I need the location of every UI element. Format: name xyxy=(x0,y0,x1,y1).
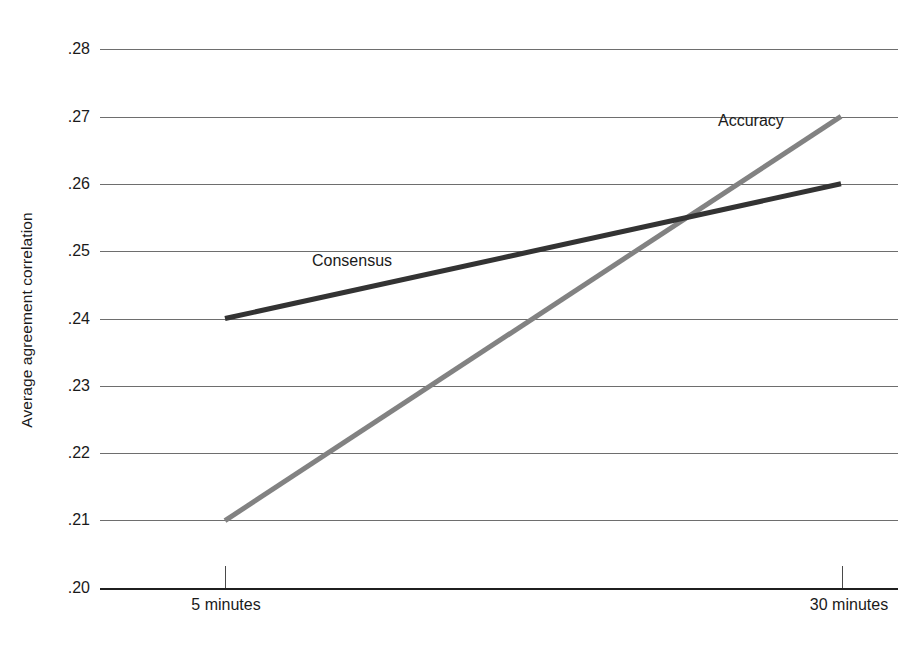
y-tick-20: .20 xyxy=(44,580,90,596)
gridline-21 xyxy=(100,520,898,521)
series-label-accuracy: Accuracy xyxy=(718,112,784,130)
y-tick-25: .25 xyxy=(44,243,90,259)
y-tick-label-28: .28 xyxy=(44,41,90,57)
series-label-consensus: Consensus xyxy=(312,252,392,270)
gridline-23 xyxy=(100,386,898,387)
line-chart: Average agreement correlation .28 .27 .2… xyxy=(0,0,922,649)
y-tick-label-26: .26 xyxy=(44,176,90,192)
y-tick-label-21: .21 xyxy=(44,512,90,528)
y-tick-label-22: .22 xyxy=(44,445,90,461)
y-tick-27: .27 xyxy=(44,109,90,125)
gridline-26 xyxy=(100,184,898,185)
gridline-28 xyxy=(100,49,898,50)
y-tick-label-25: .25 xyxy=(44,243,90,259)
x-tick-label-30-minutes: 30 minutes xyxy=(779,596,919,614)
x-axis-line xyxy=(100,588,898,590)
x-tick-label-5-minutes: 5 minutes xyxy=(156,596,296,614)
y-tick-label-23: .23 xyxy=(44,378,90,394)
y-tick-24: .24 xyxy=(44,311,90,327)
plot-area xyxy=(0,0,922,649)
y-tick-28: .28 xyxy=(44,41,90,57)
y-axis-title: Average agreement correlation xyxy=(12,40,42,600)
y-tick-23: .23 xyxy=(44,378,90,394)
y-tick-label-20: .20 xyxy=(44,580,90,596)
x-tick-30-minutes xyxy=(842,566,843,588)
y-tick-22: .22 xyxy=(44,445,90,461)
y-tick-label-24: .24 xyxy=(44,311,90,327)
y-tick-label-27: .27 xyxy=(44,109,90,125)
gridline-22 xyxy=(100,453,898,454)
y-tick-26: .26 xyxy=(44,176,90,192)
gridline-24 xyxy=(100,319,898,320)
gridline-25 xyxy=(100,251,898,252)
x-tick-5-minutes xyxy=(225,566,226,588)
y-tick-21: .21 xyxy=(44,512,90,528)
